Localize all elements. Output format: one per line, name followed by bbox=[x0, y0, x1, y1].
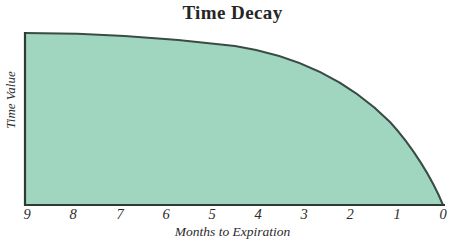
x-tick-label-0: 0 bbox=[430, 205, 456, 223]
x-tick-label-6: 6 bbox=[153, 205, 179, 223]
x-tick-label-8: 8 bbox=[60, 205, 86, 223]
x-axis-tick-labels: 9876543210 bbox=[0, 205, 465, 225]
x-axis-label: Months to Expiration bbox=[0, 224, 465, 240]
x-tick-label-9: 9 bbox=[14, 205, 40, 223]
x-tick-label-1: 1 bbox=[384, 205, 410, 223]
time-value-decay-area bbox=[25, 33, 443, 205]
y-axis-label: Time Value bbox=[3, 57, 19, 143]
x-tick-label-7: 7 bbox=[107, 205, 133, 223]
x-tick-label-2: 2 bbox=[337, 205, 363, 223]
time-decay-chart: Time Decay Time Value 9876543210 Months … bbox=[0, 0, 465, 244]
x-tick-label-4: 4 bbox=[245, 205, 271, 223]
x-tick-label-5: 5 bbox=[199, 205, 225, 223]
x-tick-label-3: 3 bbox=[291, 205, 317, 223]
